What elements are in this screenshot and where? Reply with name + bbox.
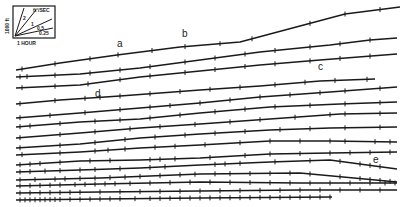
trace-label-c: c	[318, 61, 323, 72]
trace-figure: ft²/SEC 2 1 0.5 0.25 1000 ft 1 HOUR abcd…	[0, 0, 407, 207]
trace-label-e: e	[373, 154, 379, 165]
inset-ray-1	[15, 8, 24, 36]
trace-line	[16, 87, 397, 118]
trace-label-b: b	[182, 28, 188, 39]
trace-label-d: d	[95, 88, 101, 99]
trace-line	[16, 79, 375, 104]
trace-line	[16, 182, 397, 186]
inset-speed-label: ft²/SEC	[33, 7, 50, 13]
trace-label-a: a	[117, 38, 123, 49]
inset-ray-label-4: 0.25	[39, 30, 49, 36]
trace-line	[16, 197, 332, 200]
trace-labels: abcde	[95, 28, 379, 165]
inset-x-label: 1 HOUR	[17, 40, 36, 46]
inset-ray-label-1: 2	[23, 15, 26, 21]
inset-y-label: 1000 ft	[4, 18, 10, 34]
inset-ray-label-2: 1	[31, 21, 34, 27]
traces	[16, 7, 400, 202]
trace-line	[16, 7, 400, 70]
scale-inset: ft²/SEC 2 1 0.5 0.25 1000 ft 1 HOUR	[4, 6, 55, 46]
